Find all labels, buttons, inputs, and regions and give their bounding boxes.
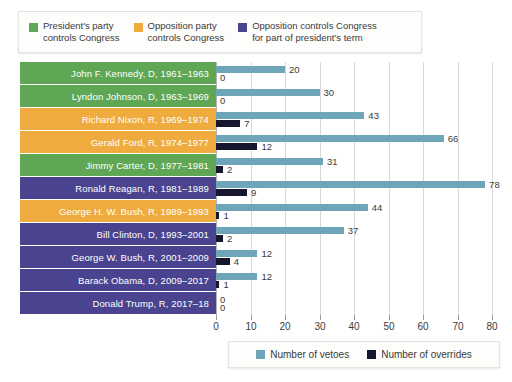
president-band: George W. Bush, R, 2001–2009 xyxy=(20,246,216,269)
override-value-label: 1 xyxy=(223,211,228,220)
legend-item-number-of-vetoes: Number of vetoes xyxy=(256,349,349,360)
president-band: Jimmy Carter, D, 1977–1981 xyxy=(20,154,216,177)
override-value-label: 0 xyxy=(220,73,225,82)
legend-item-pres-party-controls: President's party controls Congress xyxy=(29,20,120,44)
x-axis: 01020304050607080 xyxy=(216,315,492,337)
gridline xyxy=(389,62,390,315)
president-band: Donald Trump, R, 2017–18 xyxy=(20,292,216,315)
green-swatch-icon xyxy=(29,23,38,32)
bars-and-gridlines: 203043663178443712120007122912410 xyxy=(216,62,492,315)
override-bar xyxy=(216,281,219,288)
x-tick xyxy=(354,315,355,320)
veto-value-label: 30 xyxy=(324,88,335,97)
veto-bar xyxy=(216,158,323,165)
override-bar xyxy=(216,166,223,173)
override-value-label: 12 xyxy=(261,142,272,151)
x-tick xyxy=(492,315,493,320)
override-value-label: 2 xyxy=(227,234,232,243)
override-value-label: 0 xyxy=(220,303,225,312)
x-tick xyxy=(320,315,321,320)
override-swatch-icon xyxy=(367,350,376,359)
legend-item-opposition-part-term: Opposition controls Congress for part of… xyxy=(238,20,377,44)
override-value-label: 7 xyxy=(244,119,249,128)
override-value-label: 0 xyxy=(220,96,225,105)
purple-swatch-icon xyxy=(238,23,247,32)
override-bar xyxy=(216,258,230,265)
veto-bar xyxy=(216,135,444,142)
veto-bar xyxy=(216,66,285,73)
override-value-label: 4 xyxy=(234,257,239,266)
president-band: Gerald Ford, R, 1974–1977 xyxy=(20,131,216,154)
president-band: Richard Nixon, R, 1969–1974 xyxy=(20,108,216,131)
x-tick xyxy=(458,315,459,320)
override-bar xyxy=(216,143,257,150)
x-tick-label: 10 xyxy=(245,321,256,332)
chart-screenshot: President's party controls Congress Oppo… xyxy=(0,0,512,382)
veto-value-label: 12 xyxy=(261,249,272,258)
orange-swatch-icon xyxy=(134,23,143,32)
veto-bar xyxy=(216,273,257,280)
gridline xyxy=(423,62,424,315)
veto-value-label: 37 xyxy=(348,226,359,235)
x-tick xyxy=(216,315,217,320)
x-tick-label: 40 xyxy=(348,321,359,332)
legend-label-number-of-vetoes: Number of vetoes xyxy=(270,349,349,360)
veto-bar xyxy=(216,204,368,211)
override-value-label: 2 xyxy=(227,165,232,174)
veto-value-label: 66 xyxy=(448,134,459,143)
x-tick-label: 20 xyxy=(279,321,290,332)
veto-bar xyxy=(216,89,320,96)
override-bar xyxy=(216,235,223,242)
veto-swatch-icon xyxy=(256,350,265,359)
legend-item-number-of-overrides: Number of overrides xyxy=(367,349,472,360)
gridline xyxy=(458,62,459,315)
president-band: George H. W. Bush, R, 1989–1993 xyxy=(20,200,216,223)
president-band-label: Ronald Reagan, R, 1981–1989 xyxy=(75,183,209,194)
x-tick xyxy=(285,315,286,320)
legend-label-opposition-controls: Opposition party controls Congress xyxy=(148,20,225,44)
veto-value-label: 12 xyxy=(261,272,272,281)
x-tick-label: 80 xyxy=(486,321,497,332)
gridline xyxy=(285,62,286,315)
legend-label-pres-party-controls: President's party controls Congress xyxy=(43,20,120,44)
legend-label-opposition-part-term: Opposition controls Congress for part of… xyxy=(252,20,377,44)
veto-value-label: 20 xyxy=(289,65,300,74)
x-tick xyxy=(389,315,390,320)
veto-value-label: 44 xyxy=(372,203,383,212)
veto-bar xyxy=(216,181,485,188)
president-band: Bill Clinton, D, 1993–2001 xyxy=(20,223,216,246)
x-tick-label: 0 xyxy=(213,321,219,332)
legend-label-number-of-overrides: Number of overrides xyxy=(381,349,472,360)
president-band-label: Bill Clinton, D, 1993–2001 xyxy=(97,229,209,240)
override-bar xyxy=(216,120,240,127)
override-bar xyxy=(216,212,219,219)
president-band: Lyndon Johnson, D, 1963–1969 xyxy=(20,85,216,108)
president-band-label: John F. Kennedy, D, 1961–1963 xyxy=(71,68,209,79)
president-band-label: George W. Bush, R, 2001–2009 xyxy=(72,252,209,263)
override-value-label: 9 xyxy=(251,188,256,197)
x-tick xyxy=(251,315,252,320)
legend-item-opposition-controls: Opposition party controls Congress xyxy=(134,20,225,44)
veto-value-label: 78 xyxy=(489,180,500,189)
president-band: Ronald Reagan, R, 1981–1989 xyxy=(20,177,216,200)
president-band-label: Barack Obama, D, 2009–2017 xyxy=(78,275,209,286)
president-band: Barack Obama, D, 2009–2017 xyxy=(20,269,216,292)
veto-value-label: 43 xyxy=(368,111,379,120)
president-band-label: George H. W. Bush, R, 1989–1993 xyxy=(59,206,209,217)
president-band-label: Richard Nixon, R, 1969–1974 xyxy=(82,114,209,125)
plot-area: John F. Kennedy, D, 1961–1963Lyndon John… xyxy=(0,62,512,322)
x-tick-label: 70 xyxy=(452,321,463,332)
x-tick xyxy=(423,315,424,320)
veto-value-label: 31 xyxy=(327,157,338,166)
president-band: John F. Kennedy, D, 1961–1963 xyxy=(20,62,216,85)
override-bar xyxy=(216,189,247,196)
veto-bar xyxy=(216,112,364,119)
gridline xyxy=(320,62,321,315)
president-band-label: Lyndon Johnson, D, 1963–1969 xyxy=(72,91,209,102)
x-tick-label: 50 xyxy=(383,321,394,332)
president-band-label: Jimmy Carter, D, 1977–1981 xyxy=(85,160,209,171)
override-value-label: 1 xyxy=(223,280,228,289)
congress-control-legend: President's party controls Congress Oppo… xyxy=(18,11,422,53)
series-legend: Number of vetoes Number of overrides xyxy=(228,341,500,368)
president-band-label: Donald Trump, R, 2017–18 xyxy=(93,298,209,309)
